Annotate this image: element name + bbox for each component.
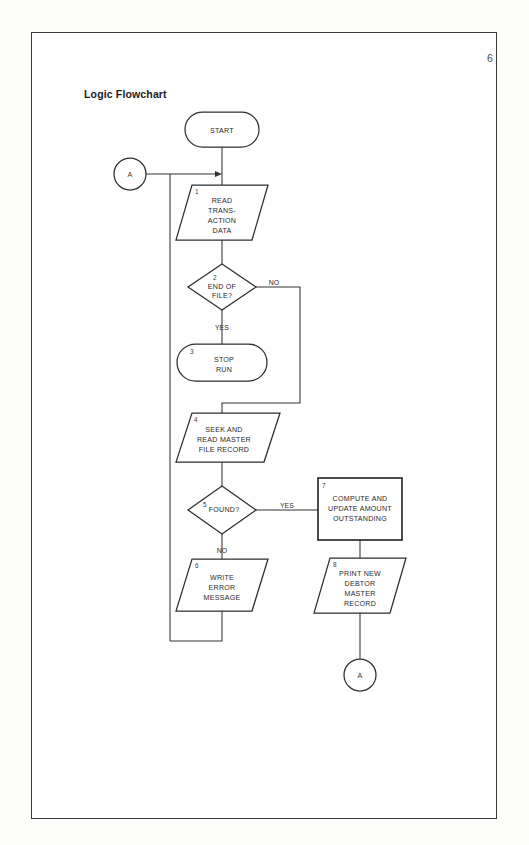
edge-label-n5-yes: YES (280, 502, 294, 509)
node-8-line-2: DEBTOR (345, 580, 376, 588)
node-6-line-2: ERROR (209, 584, 236, 592)
scanned-page: 6 Logic Flowchart START (0, 0, 529, 845)
node-1-line-1: READ (212, 197, 233, 205)
node-6-line-3: MESSAGE (204, 594, 241, 602)
node-3-line-1: STOP (214, 356, 234, 364)
edge-label-n2-no: NO (269, 279, 280, 286)
node-8-number: 8 (333, 561, 337, 568)
node-8-line-1: PRINT NEW (339, 570, 381, 578)
node-5-number: 5 (203, 501, 207, 508)
node-3-line-2: RUN (216, 366, 232, 374)
node-6-line-1: WRITE (210, 574, 234, 582)
connector-a-top-label: A (128, 170, 133, 179)
node-start-label: START (210, 127, 234, 135)
node-7-line-2: UPDATE AMOUNT (328, 505, 392, 513)
node-1-number: 1 (195, 188, 199, 195)
node-3-number: 3 (190, 348, 194, 355)
node-4-number: 4 (194, 416, 198, 423)
node-4-line-2: READ MASTER (197, 436, 251, 444)
arrowhead-into-n1 (215, 171, 222, 177)
flowchart-canvas: START A 1 READ TRANS- ACTION DATA 2 END … (0, 0, 529, 845)
edge-n6-to-loopback (170, 611, 222, 641)
node-8-line-4: RECORD (344, 600, 376, 608)
node-1-line-2: TRANS- (208, 207, 236, 215)
node-4-line-3: FILE RECORD (199, 446, 249, 454)
node-7-line-1: COMPUTE AND (333, 495, 388, 503)
node-4-line-1: SEEK AND (205, 426, 242, 434)
node-2-line-1: END OF (208, 283, 237, 291)
edge-label-n5-no: NO (217, 547, 228, 554)
node-7-number: 7 (322, 482, 326, 489)
edge-label-n2-yes: YES (215, 324, 229, 331)
node-8-line-3: MASTER (344, 590, 375, 598)
node-1-line-4: DATA (213, 227, 232, 235)
node-2-number: 2 (213, 274, 217, 281)
node-2-line-2: FILE? (212, 292, 232, 300)
node-5-line-1: FOUND? (209, 506, 240, 514)
node-6-number: 6 (195, 562, 199, 569)
connector-a-bottom-label: A (358, 671, 363, 680)
node-1-line-3: ACTION (208, 217, 236, 225)
node-7-line-3: OUTSTANDING (333, 515, 387, 523)
